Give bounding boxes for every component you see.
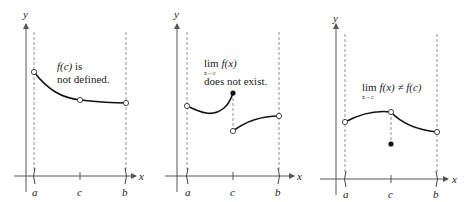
y-axis-label: y bbox=[173, 8, 179, 20]
annotation-limit: lim f(x) ≠ f(c) bbox=[362, 81, 422, 94]
tick-label-b: b bbox=[122, 186, 128, 198]
tick-label-b: b bbox=[275, 186, 281, 198]
open-point-a bbox=[31, 69, 36, 74]
x-axis-label: x bbox=[296, 170, 302, 182]
annotation-subscript: x→c bbox=[362, 94, 374, 100]
closed-point-c bbox=[230, 90, 235, 95]
open-point-b bbox=[123, 100, 128, 105]
tick-label-c: c bbox=[77, 186, 82, 198]
right-curve bbox=[233, 116, 279, 131]
closed-point-fc bbox=[388, 141, 393, 146]
panel-not-defined: y x a c b f(c) is not defined. bbox=[14, 8, 144, 198]
open-point-c bbox=[388, 109, 393, 114]
continuity-diagram: y x a c b f(c) is not defined. y x a c b bbox=[0, 0, 470, 202]
tick-label-a: a bbox=[32, 186, 38, 198]
tick-label-a: a bbox=[343, 188, 349, 200]
annotation-limit: lim f(x) bbox=[204, 57, 237, 70]
tick-label-c: c bbox=[230, 186, 235, 198]
tick-label-c: c bbox=[388, 188, 393, 200]
tick-label-b: b bbox=[433, 188, 439, 200]
y-axis-label: y bbox=[332, 12, 338, 24]
open-point-c bbox=[230, 128, 235, 133]
annotation-line2: not defined. bbox=[57, 73, 110, 85]
open-point-b bbox=[434, 129, 439, 134]
panel-limit-dne: y x a c b lim f(x) x→c does not exist. bbox=[165, 8, 302, 198]
panel-limit-not-equal: y x a c b lim f(x) ≠ f(c) x→c bbox=[320, 12, 457, 200]
x-axis-label: x bbox=[451, 173, 457, 185]
tick-label-a: a bbox=[185, 186, 191, 198]
left-curve bbox=[187, 93, 233, 113]
x-axis-label: x bbox=[138, 170, 144, 182]
annotation-line2: does not exist. bbox=[204, 75, 267, 87]
open-point-a bbox=[342, 119, 347, 124]
y-axis-label: y bbox=[22, 8, 28, 20]
open-point-c bbox=[77, 97, 82, 102]
annotation-line1: f(c) is bbox=[57, 60, 82, 73]
open-point-a bbox=[184, 103, 189, 108]
open-point-b bbox=[276, 113, 281, 118]
